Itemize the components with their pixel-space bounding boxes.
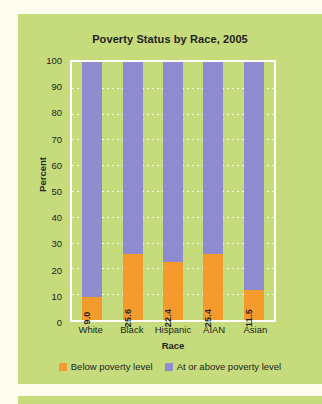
chart-legend: Below poverty level At or above poverty … <box>18 361 322 372</box>
bar-asian[interactable]: 11.5 <box>244 62 264 320</box>
y-tick-80: 80 <box>51 107 62 118</box>
legend-label: At or above poverty level <box>177 361 282 372</box>
y-tick-40: 40 <box>51 212 62 223</box>
x-axis: White Black Hispanic AIAN Asian <box>70 324 276 340</box>
y-tick-20: 20 <box>51 264 62 275</box>
bar-white[interactable]: 9.0 <box>82 62 102 320</box>
y-tick-70: 70 <box>51 133 62 144</box>
bar-segment-below: 9.0 <box>82 297 102 320</box>
legend-item-below-poverty[interactable]: Below poverty level <box>59 361 153 372</box>
y-tick-0: 0 <box>57 317 62 328</box>
legend-swatch-icon <box>59 363 67 371</box>
chart-panel: Poverty Status by Race, 2005 100 90 80 7… <box>18 14 322 384</box>
x-tick-black: Black <box>112 324 152 340</box>
chart-title: Poverty Status by Race, 2005 <box>18 33 322 45</box>
bar-group: 9.0 25.6 22.4 <box>72 62 274 320</box>
y-tick-90: 90 <box>51 81 62 92</box>
x-tick-aian: AIAN <box>194 324 234 340</box>
bar-segment-below: 22.4 <box>163 262 183 320</box>
y-axis-label: Percent <box>37 145 48 205</box>
y-tick-100: 100 <box>46 55 62 66</box>
plot-inner: 9.0 25.6 22.4 <box>72 62 274 320</box>
plot-area: 9.0 25.6 22.4 <box>70 60 276 322</box>
bar-aian[interactable]: 25.4 <box>203 62 223 320</box>
y-tick-60: 60 <box>51 159 62 170</box>
legend-item-at-or-above-poverty[interactable]: At or above poverty level <box>165 361 282 372</box>
legend-swatch-icon <box>165 363 173 371</box>
bar-value-label: 9.0 <box>82 311 92 324</box>
x-tick-white: White <box>71 324 111 340</box>
y-tick-50: 50 <box>51 186 62 197</box>
x-axis-label: Race <box>70 340 276 351</box>
poverty-status-chart: Poverty Status by Race, 2005 100 90 80 7… <box>18 14 322 384</box>
bar-black[interactable]: 25.6 <box>123 62 143 320</box>
x-tick-asian: Asian <box>235 324 275 340</box>
bar-segment-above <box>244 62 264 290</box>
bar-hispanic[interactable]: 22.4 <box>163 62 183 320</box>
bar-segment-below: 25.6 <box>123 254 143 320</box>
x-tick-hispanic: Hispanic <box>153 324 193 340</box>
bar-segment-above <box>203 62 223 254</box>
bar-segment-above <box>123 62 143 254</box>
next-panel <box>18 396 322 404</box>
y-tick-30: 30 <box>51 238 62 249</box>
y-tick-10: 10 <box>51 290 62 301</box>
bar-segment-below: 25.4 <box>203 254 223 320</box>
bar-segment-below: 11.5 <box>244 290 264 320</box>
bar-segment-above <box>163 62 183 262</box>
bar-segment-above <box>82 62 102 297</box>
page-background: Poverty Status by Race, 2005 100 90 80 7… <box>0 0 322 404</box>
legend-label: Below poverty level <box>71 361 153 372</box>
